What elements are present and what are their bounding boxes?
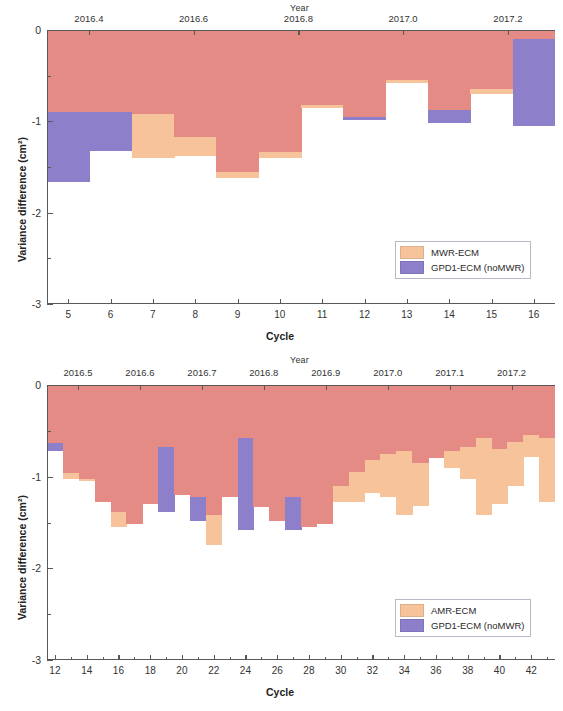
bottom-tick-label: 7 [150, 309, 156, 320]
bar-panel-2-overlap-36 [428, 385, 444, 458]
bar-panel-1-overlap-14 [428, 30, 471, 110]
bar-panel-2-overlap-13 [63, 385, 79, 473]
bar-panel-2-overlap-40 [492, 385, 508, 449]
bar-panel-2-overlap-33 [380, 385, 396, 454]
bottom-tick-label: 32 [367, 665, 378, 676]
top-tick-label: 2016.9 [311, 367, 340, 378]
y-axis-minor-tick [47, 523, 51, 524]
bottom-tick-label: 42 [526, 665, 537, 676]
y-tick-label: 0 [17, 24, 41, 36]
bottom-axis-minor-tick [388, 657, 389, 660]
bar-panel-2-overlap-43 [539, 385, 555, 438]
bar-panel-2-overlap-17 [126, 385, 142, 524]
bar-panel-2-overlap-24 [238, 385, 254, 438]
top-axis-tick [388, 385, 389, 390]
legend-swatch [400, 246, 424, 259]
bottom-axis-tick [214, 655, 215, 660]
top-axis-title-2: Year [290, 355, 309, 365]
bottom-axis-tick [153, 299, 154, 304]
bottom-axis-minor-tick [261, 657, 262, 660]
bar-panel-2-overlap-23 [222, 385, 238, 497]
bottom-axis-tick [182, 655, 183, 660]
bar-panel-2-overlap-37 [444, 385, 460, 451]
bottom-axis-tick [468, 655, 469, 660]
top-axis-tick [89, 30, 90, 35]
bottom-axis-tick [245, 655, 246, 660]
bottom-axis-tick [436, 655, 437, 660]
legend-label: MWR-ECM [431, 247, 479, 258]
bottom-axis-tick [68, 299, 69, 304]
y-axis-tick [47, 213, 53, 214]
bar-panel-1-overlap-12 [343, 30, 386, 117]
bar-panel-2-overlap-39 [476, 385, 492, 438]
y-axis-tick [47, 660, 53, 661]
x-axis-title-1: Cycle [266, 330, 294, 342]
bar-panel-1-overlap-6 [89, 30, 132, 112]
bottom-axis-tick [531, 655, 532, 660]
bar-panel-2-overlap-42 [523, 385, 539, 435]
top-tick-label: 2017.2 [493, 13, 522, 24]
bottom-axis-minor-tick [420, 657, 421, 660]
top-tick-label: 2016.7 [187, 367, 216, 378]
bottom-tick-label: 13 [401, 309, 412, 320]
bottom-tick-label: 11 [317, 309, 327, 320]
bar-panel-2-overlap-34 [396, 385, 412, 451]
top-axis-tick [264, 385, 265, 390]
y-axis-tick [47, 568, 53, 569]
top-axis-tick [450, 385, 451, 390]
bottom-axis-tick [449, 299, 450, 304]
bar-panel-1-overlap-15 [470, 30, 513, 89]
bottom-axis-minor-tick [325, 657, 326, 660]
bottom-tick-label: 5 [65, 309, 71, 320]
bottom-axis-minor-tick [293, 657, 294, 660]
y-axis-minor-tick [47, 431, 51, 432]
bottom-axis-minor-tick [166, 657, 167, 660]
top-tick-label: 2017.1 [435, 367, 464, 378]
bar-panel-2-overlap-27 [285, 385, 301, 497]
legend-label: GPD1-ECM (noMWR) [431, 262, 524, 273]
axis-bottom-1 [47, 303, 555, 304]
y-axis-tick [47, 477, 53, 478]
bar-panel-2-overlap-29 [317, 385, 333, 524]
bottom-axis-tick [111, 299, 112, 304]
bottom-axis-tick [87, 655, 88, 660]
y-axis-tick [47, 121, 53, 122]
bottom-tick-label: 14 [444, 309, 455, 320]
y-axis-tick [47, 385, 53, 386]
legend-label: AMR-ECM [431, 605, 476, 616]
bar-panel-2-overlap-20 [174, 385, 190, 495]
bottom-axis-tick [277, 655, 278, 660]
bottom-tick-label: 38 [462, 665, 473, 676]
top-tick-label: 2017.0 [389, 13, 418, 24]
bar-panel-2-overlap-41 [507, 385, 523, 442]
top-tick-label: 2017.0 [373, 367, 402, 378]
bar-panel-2-overlap-38 [460, 385, 476, 447]
bottom-tick-label: 20 [176, 665, 187, 676]
y-tick-label: -2 [17, 562, 41, 574]
bar-panel-2-overlap-21 [190, 385, 206, 497]
bottom-axis-tick [322, 299, 323, 304]
legend-label: GPD1-ECM (noMWR) [431, 620, 524, 631]
top-axis-tick [403, 30, 404, 35]
bottom-axis-minor-tick [134, 657, 135, 660]
legend-item: GPD1-ECM (noMWR) [400, 618, 524, 633]
bottom-tick-label: 24 [240, 665, 251, 676]
axis-top-1 [47, 30, 555, 31]
bar-panel-2-overlap-14 [79, 385, 95, 479]
y-axis-tick [47, 30, 53, 31]
bar-panel-2-overlap-30 [333, 385, 349, 486]
bottom-axis-minor-tick [198, 657, 199, 660]
bottom-tick-label: 26 [272, 665, 283, 676]
bottom-axis-tick [372, 655, 373, 660]
bottom-axis-tick [341, 655, 342, 660]
bar-panel-1-overlap-13 [386, 30, 429, 80]
bar-panel-1-overlap-7 [132, 30, 175, 114]
bottom-axis-tick [309, 655, 310, 660]
y-axis-minor-tick [47, 258, 51, 259]
bar-panel-1-overlap-11 [301, 30, 344, 105]
chart-panel-2: Year 2016.52016.62016.72016.82016.92017.… [0, 352, 563, 711]
top-tick-label: 2017.2 [497, 367, 526, 378]
bar-panel-2-overlap-31 [349, 385, 365, 472]
bottom-axis-tick [118, 655, 119, 660]
bottom-tick-label: 14 [81, 665, 92, 676]
